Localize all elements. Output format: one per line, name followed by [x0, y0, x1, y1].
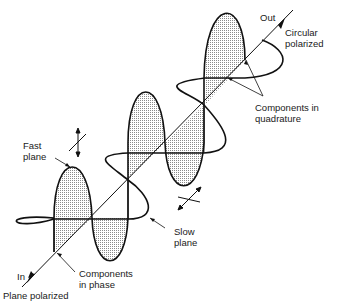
- components-in-phase-label-2: in phase: [79, 279, 115, 290]
- output-arrow-icon: [278, 18, 285, 29]
- components-in-phase-label-1: Components: [79, 268, 133, 279]
- circular-polarized-label-2: polarized: [285, 38, 324, 49]
- circular-polarized-label-1: Circular: [285, 27, 318, 38]
- slow-plane-label-2: plane: [174, 237, 197, 248]
- leader-lines: [55, 60, 263, 272]
- propagation-axis: [22, 10, 293, 287]
- slow-axis-symbol-icon: [178, 187, 201, 210]
- fast-axis-symbol-icon: [69, 128, 86, 157]
- quadrature-label-1: Components in: [255, 102, 319, 113]
- quadrature-label-2: quadrature: [255, 113, 301, 124]
- slow-plane-label-1: Slow: [174, 226, 195, 237]
- plane-polarized-label: Plane polarized: [3, 290, 69, 301]
- out-label: Out: [260, 12, 275, 23]
- fast-plane-label-1: Fast: [23, 140, 41, 151]
- fast-plane-label-2: plane: [23, 151, 46, 162]
- in-label: In: [17, 271, 25, 282]
